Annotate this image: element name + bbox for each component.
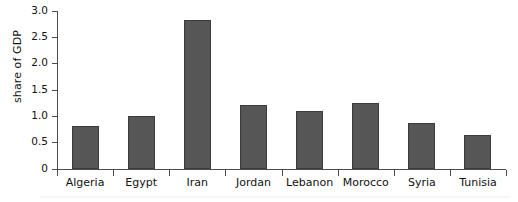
y-tick-label: 0.5 [31, 135, 48, 148]
x-axis-label: Egypt [125, 176, 157, 189]
x-tick [113, 170, 114, 176]
y-tick: 3.0 [52, 11, 58, 12]
y-tick: 2.5 [52, 37, 58, 38]
x-tick [57, 170, 58, 176]
bar [72, 126, 99, 169]
bar [408, 123, 435, 169]
y-tick: 2.0 [52, 63, 58, 64]
x-axis-label: Iran [187, 176, 208, 189]
y-axis-line [57, 11, 58, 170]
y-tick-label: 3.0 [31, 4, 48, 17]
x-tick [169, 170, 170, 176]
bar [296, 111, 323, 169]
y-tick-label: 2.5 [31, 30, 48, 43]
y-tick-label: 1.5 [31, 83, 48, 96]
x-tick [225, 170, 226, 176]
x-axis-label: Morocco [343, 176, 389, 189]
y-tick: 0.5 [52, 142, 58, 143]
x-axis-label: Syria [408, 176, 436, 189]
bar-chart: share of GDP 00.51.01.52.02.53.0 Algeria… [0, 0, 518, 202]
plot-area: 00.51.01.52.02.53.0 [57, 11, 506, 170]
x-axis-label: Lebanon [286, 176, 333, 189]
x-tick [282, 170, 283, 176]
bar [352, 103, 379, 169]
x-axis-label: Tunisia [459, 176, 497, 189]
y-tick: 1.0 [52, 116, 58, 117]
y-tick-label: 2.0 [31, 56, 48, 69]
x-axis-label: Jordan [236, 176, 271, 189]
x-axis-label: Algeria [66, 176, 105, 189]
y-tick: 1.5 [52, 90, 58, 91]
bar [184, 20, 211, 169]
x-tick [450, 170, 451, 176]
bar [128, 116, 155, 169]
y-axis-title: share of GDP [11, 12, 24, 122]
bar [464, 135, 491, 169]
y-tick-label: 1.0 [31, 109, 48, 122]
bar [240, 105, 267, 169]
x-tick [338, 170, 339, 176]
x-tick [394, 170, 395, 176]
x-tick [506, 170, 507, 176]
y-tick-label: 0 [41, 162, 48, 175]
page-artifact [40, 196, 510, 198]
